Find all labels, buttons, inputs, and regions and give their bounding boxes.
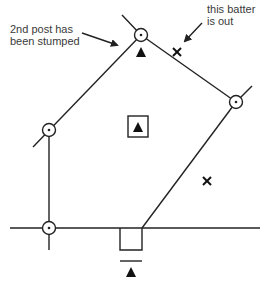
post-right-icon bbox=[230, 96, 243, 109]
annotation-stumped-line2: been stumped bbox=[10, 35, 80, 47]
annotation-stumped: 2nd post has been stumped bbox=[10, 23, 80, 47]
backstop-triangle-icon bbox=[126, 267, 136, 277]
arrow-right-icon bbox=[185, 23, 202, 41]
annotation-batter-out: this batter is out bbox=[207, 3, 255, 27]
annotation-stumped-line1: 2nd post has bbox=[10, 23, 80, 35]
post-top-icon bbox=[135, 29, 148, 42]
top-to-right-line bbox=[141, 35, 236, 102]
right-to-home-line bbox=[142, 102, 236, 228]
x-mark-top-icon bbox=[173, 48, 181, 56]
batting-square-icon bbox=[120, 228, 142, 250]
post-left-icon bbox=[43, 124, 56, 137]
post-bottom-left-icon bbox=[43, 222, 56, 235]
annotation-batter-out-line2: is out bbox=[207, 15, 255, 27]
x-mark-right-icon bbox=[203, 177, 211, 185]
arrow-left-icon bbox=[82, 33, 117, 45]
annotation-batter-out-line1: this batter bbox=[207, 3, 255, 15]
fielder-top-triangle-icon bbox=[136, 47, 146, 57]
